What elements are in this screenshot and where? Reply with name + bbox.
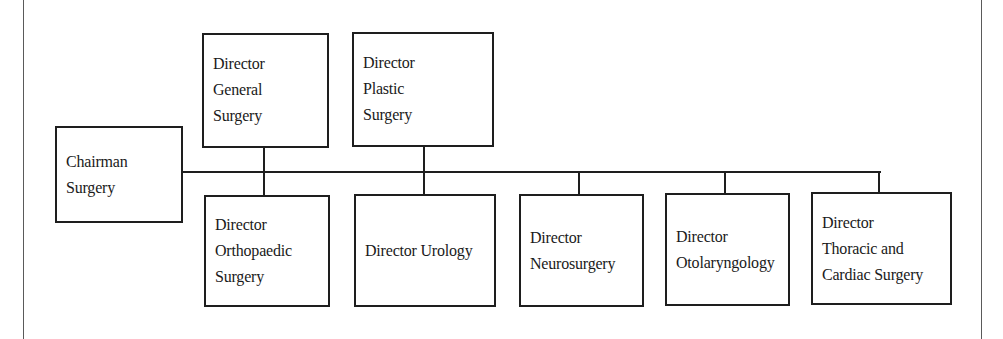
connector-plastic-surgery bbox=[423, 146, 425, 172]
box-text-line: Orthopaedic bbox=[215, 238, 324, 264]
director-general-surgery-box: Director General Surgery bbox=[202, 33, 329, 148]
connector-otolaryngology bbox=[724, 172, 726, 194]
director-neurosurgery-box: Director Neurosurgery bbox=[519, 194, 644, 307]
box-text-line: Director bbox=[822, 210, 946, 236]
box-text-line: Director Urology bbox=[365, 238, 490, 264]
connector-orthopaedic-surgery bbox=[263, 172, 265, 196]
chairman-surgery-box: Chairman Surgery bbox=[55, 126, 183, 223]
frame-left-rule bbox=[23, 0, 24, 339]
trunk-connector bbox=[182, 171, 881, 173]
connector-urology bbox=[423, 172, 425, 195]
director-plastic-surgery-box: Director Plastic Surgery bbox=[352, 32, 494, 147]
box-text-line: Thoracic and bbox=[822, 236, 946, 262]
box-text-line: Director bbox=[215, 212, 324, 238]
box-text-line: Surgery bbox=[363, 102, 488, 128]
box-text-line: General bbox=[213, 77, 323, 103]
director-thoracic-cardiac-surgery-box: Director Thoracic and Cardiac Surgery bbox=[811, 192, 952, 305]
box-text-line: Chairman bbox=[66, 149, 177, 175]
box-text-line: Director bbox=[530, 225, 638, 251]
box-text-line: Neurosurgery bbox=[530, 251, 638, 277]
box-text-line: Surgery bbox=[213, 103, 323, 129]
box-text-line: Director bbox=[676, 224, 784, 250]
box-text-line: Surgery bbox=[66, 175, 177, 201]
box-text-line: Plastic bbox=[363, 76, 488, 102]
box-text-line: Surgery bbox=[215, 264, 324, 290]
connector-thoracic-cardiac-surgery bbox=[878, 171, 880, 194]
box-text-line: Director bbox=[363, 50, 488, 76]
director-otolaryngology-box: Director Otolaryngology bbox=[665, 193, 790, 306]
director-urology-box: Director Urology bbox=[354, 194, 496, 307]
connector-neurosurgery bbox=[578, 172, 580, 195]
frame-right-rule bbox=[981, 0, 982, 339]
box-text-line: Otolaryngology bbox=[676, 250, 784, 276]
connector-general-surgery bbox=[263, 147, 265, 172]
box-text-line: Cardiac Surgery bbox=[822, 262, 946, 288]
box-text-line: Director bbox=[213, 51, 323, 77]
director-orthopaedic-surgery-box: Director Orthopaedic Surgery bbox=[204, 195, 330, 307]
